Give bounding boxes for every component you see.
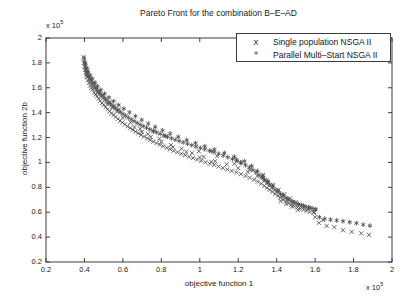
x-axis-exponent-power: 5	[380, 281, 383, 287]
legend-item-parallel-multi-start: * Parallel Multi–Start NSGA II	[237, 48, 390, 62]
legend-item-single-population: x Single population NSGA II	[237, 35, 390, 49]
y-tick-label: 2	[20, 33, 42, 42]
x-tick-label: 1.8	[341, 265, 367, 274]
x-tick-label: 0.4	[71, 265, 97, 274]
legend-label-parallel-multi-start: Parallel Multi–Start NSGA II	[273, 48, 377, 62]
x-tick-label: 1	[187, 265, 213, 274]
x-tick-label: 2	[379, 265, 405, 274]
y-axis-label: objective function 2b	[20, 79, 29, 199]
x-axis-label: objective function 1	[46, 279, 392, 288]
y-tick-label: 0.6	[20, 207, 42, 216]
x-tick-label: 0.2	[33, 265, 59, 274]
x-tick-label: 1.2	[225, 265, 251, 274]
legend-label-single-population: Single population NSGA II	[273, 35, 371, 49]
x-tick-label: 0.6	[110, 265, 136, 274]
x-tick-label: 1.6	[302, 265, 328, 274]
y-tick-label: 0.2	[20, 257, 42, 266]
x-axis-exponent-text: x 10	[366, 283, 380, 292]
x-axis-exponent-label: x 105	[366, 281, 383, 292]
pareto-front-figure: Pareto Front for the combination B–E–AD …	[0, 0, 410, 299]
asterisk-marker-icon: *	[243, 48, 269, 62]
x-tick-label: 1.4	[264, 265, 290, 274]
plot-frame	[46, 38, 392, 262]
chart-legend: x Single population NSGA II * Parallel M…	[236, 33, 391, 62]
x-tick-label: 0.8	[148, 265, 174, 274]
cross-marker-icon: x	[243, 35, 269, 49]
y-tick-label: 1.8	[20, 58, 42, 67]
y-tick-label: 0.4	[20, 232, 42, 241]
